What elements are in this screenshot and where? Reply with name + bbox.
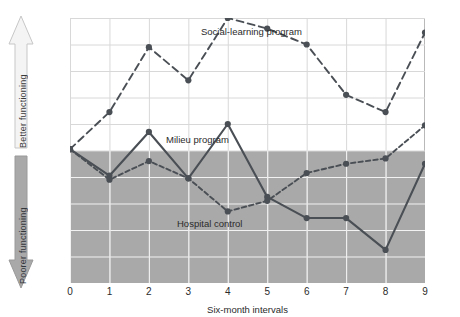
series-label-social-learning: Social-learning program [201, 26, 302, 37]
data-point [225, 18, 231, 21]
data-point [382, 155, 388, 161]
x-tick-label: 6 [304, 286, 310, 297]
data-point [225, 121, 231, 127]
data-point [382, 109, 388, 115]
data-point [264, 198, 270, 204]
x-tick-label: 2 [146, 286, 152, 297]
data-point [422, 161, 425, 167]
data-point [304, 215, 310, 221]
data-point [146, 158, 152, 164]
x-tick-label: 5 [264, 286, 270, 297]
series-line-hospital-control [70, 125, 425, 211]
data-point [146, 129, 152, 135]
data-point [106, 109, 112, 115]
series-line-social-learning-program [70, 18, 425, 149]
data-point [185, 77, 191, 83]
x-tick-label: 1 [107, 286, 113, 297]
x-tick-label: 7 [343, 286, 349, 297]
data-point [304, 170, 310, 176]
data-point [343, 161, 349, 167]
data-point [343, 215, 349, 221]
better-functioning-label: Better functioning [18, 48, 28, 148]
data-point [382, 247, 388, 253]
series-label-milieu: Milieu program [166, 134, 229, 145]
x-tick-label: 4 [225, 286, 231, 297]
series-label-hospital-control: Hospital control [177, 218, 242, 229]
data-point [304, 41, 310, 47]
x-tick-label: 8 [383, 286, 389, 297]
plot-area: +5.00+4.00+3.00+2.00+1.000.00−1.00−2.00−… [70, 18, 425, 283]
x-tick-label: 0 [67, 286, 73, 297]
data-point [225, 208, 231, 214]
poorer-functioning-label: Poorer functioning [18, 166, 28, 284]
data-point [185, 175, 191, 181]
data-series-layer [70, 18, 425, 283]
x-axis-title: Six-month intervals [70, 304, 425, 315]
data-point [146, 44, 152, 50]
x-tick-label: 3 [186, 286, 192, 297]
data-point [343, 92, 349, 98]
data-point [106, 177, 112, 183]
series-line-milieu-program [70, 124, 425, 250]
chart-figure: Better functioning Poorer functioning +5… [0, 0, 460, 317]
functioning-axis-annotations: Better functioning Poorer functioning [6, 14, 36, 290]
data-point [422, 29, 425, 35]
x-tick-label: 9 [422, 286, 428, 297]
